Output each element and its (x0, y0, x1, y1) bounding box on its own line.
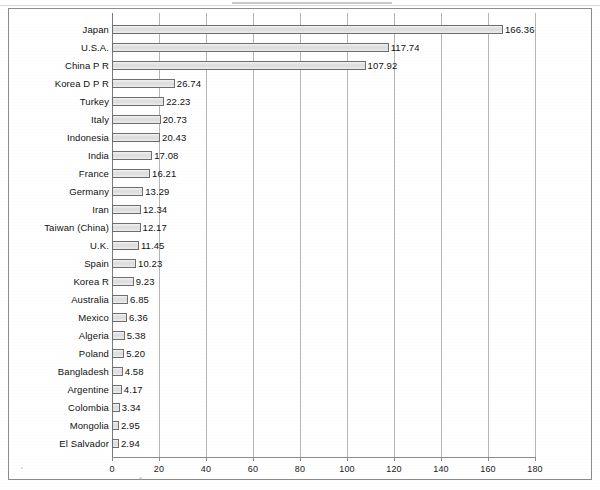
category-label: Mongolia (9, 417, 109, 435)
tick-mark-40 (206, 457, 207, 461)
scan-speck (21, 467, 23, 469)
value-label: 3.34 (122, 399, 141, 417)
bar-row: Korea D P R26.74 (9, 75, 593, 93)
bar-row: Algeria5.38 (9, 327, 593, 345)
value-label: 16.21 (152, 165, 176, 183)
bar-row: Korea R9.23 (9, 273, 593, 291)
tick-mark-180 (535, 457, 536, 461)
bar (112, 385, 122, 394)
bar-row: Mexico6.36 (9, 309, 593, 327)
category-label: Korea R (9, 273, 109, 291)
tick-label-100: 100 (339, 464, 355, 474)
bar-row: Turkey22.23 (9, 93, 593, 111)
value-label: 12.17 (143, 219, 167, 237)
tick-mark-80 (300, 457, 301, 461)
tick-mark-60 (253, 457, 254, 461)
category-label: France (9, 165, 109, 183)
category-label: Italy (9, 111, 109, 129)
value-label: 17.08 (154, 147, 178, 165)
bar (112, 205, 141, 214)
bar-row: U.S.A.117.74 (9, 39, 593, 57)
category-label: Germany (9, 183, 109, 201)
tick-mark-140 (441, 457, 442, 461)
tick-label-0: 0 (109, 464, 114, 474)
category-label: Australia (9, 291, 109, 309)
bar-row: Indonesia20.43 (9, 129, 593, 147)
bar-row: China P R107.92 (9, 57, 593, 75)
bar (112, 403, 120, 412)
bar-row: Spain10.23 (9, 255, 593, 273)
value-label: 20.43 (162, 129, 186, 147)
value-label: 4.58 (125, 363, 144, 381)
value-label: 9.23 (136, 273, 155, 291)
value-label: 107.92 (368, 57, 398, 75)
bar-row: Bangladesh4.58 (9, 363, 593, 381)
value-label: 13.29 (145, 183, 169, 201)
bar (112, 295, 128, 304)
bar-row: Australia6.85 (9, 291, 593, 309)
value-label: 26.74 (177, 75, 201, 93)
tick-label-180: 180 (527, 464, 543, 474)
category-label: Poland (9, 345, 109, 363)
category-label: El Salvador (9, 435, 109, 453)
bar (112, 151, 152, 160)
value-label: 12.34 (143, 201, 167, 219)
bar (112, 43, 389, 52)
category-label: Spain (9, 255, 109, 273)
bar-row: Taiwan (China)12.17 (9, 219, 593, 237)
bar-row: U.K.11.45 (9, 237, 593, 255)
category-label: Mexico (9, 309, 109, 327)
tick-label-80: 80 (295, 464, 305, 474)
tick-mark-120 (394, 457, 395, 461)
value-label: 2.94 (121, 435, 140, 453)
value-label: 117.74 (391, 39, 420, 57)
bar-row: Colombia3.34 (9, 399, 593, 417)
category-label: Korea D P R (9, 75, 109, 93)
chart-frame: Japan166.36U.S.A.117.74China P R107.92Ko… (8, 8, 592, 480)
category-label: Iran (9, 201, 109, 219)
category-label: Turkey (9, 93, 109, 111)
bar (112, 79, 175, 88)
tick-label-40: 40 (201, 464, 211, 474)
bar (112, 97, 164, 106)
value-label: 5.20 (126, 345, 145, 363)
bar (112, 349, 124, 358)
value-label: 4.17 (124, 381, 143, 399)
bar-row: Mongolia2.95 (9, 417, 593, 435)
bar (112, 115, 161, 124)
value-label: 2.95 (121, 417, 140, 435)
tick-label-160: 160 (480, 464, 496, 474)
bar (112, 25, 503, 34)
bar (112, 223, 141, 232)
plot-area: Japan166.36U.S.A.117.74China P R107.92Ko… (112, 13, 535, 457)
bar-row: Italy20.73 (9, 111, 593, 129)
tick-mark-0 (112, 457, 113, 461)
tick-label-120: 120 (386, 464, 402, 474)
category-label: India (9, 147, 109, 165)
tick-label-140: 140 (433, 464, 449, 474)
category-label: U.S.A. (9, 39, 109, 57)
bar (112, 367, 123, 376)
category-label: Argentine (9, 381, 109, 399)
tick-mark-100 (347, 457, 348, 461)
bar (112, 61, 366, 70)
bar (112, 331, 125, 340)
category-label: Japan (9, 21, 109, 39)
bar (112, 187, 143, 196)
bar-row: Poland5.20 (9, 345, 593, 363)
category-label: Indonesia (9, 129, 109, 147)
bar (112, 439, 119, 448)
bar (112, 259, 136, 268)
bar-row: India17.08 (9, 147, 593, 165)
x-axis-line (112, 457, 536, 458)
category-label: Taiwan (China) (9, 219, 109, 237)
tick-label-20: 20 (154, 464, 164, 474)
value-label: 22.23 (166, 93, 190, 111)
value-label: 166.36 (505, 21, 535, 39)
bar-row: Germany13.29 (9, 183, 593, 201)
value-label: 11.45 (141, 237, 165, 255)
tick-mark-20 (159, 457, 160, 461)
category-label: U.K. (9, 237, 109, 255)
value-label: 5.38 (127, 327, 146, 345)
bar-row: Iran12.34 (9, 201, 593, 219)
